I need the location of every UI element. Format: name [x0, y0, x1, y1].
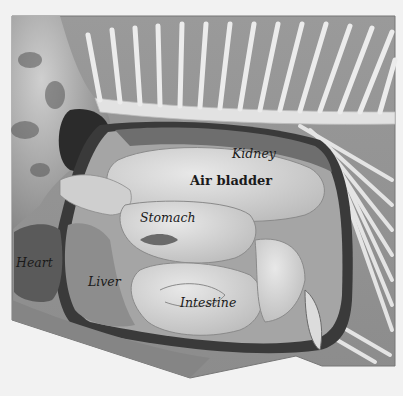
label-kidney: Kidney: [231, 146, 277, 161]
label-heart: Heart: [15, 255, 54, 270]
label-air-bladder: Air bladder: [189, 173, 272, 188]
label-liver: Liver: [87, 274, 122, 289]
label-intestine: Intestine: [179, 295, 236, 310]
fish-anatomy-illustration: Kidney Air bladder Stomach Heart Liver I…: [0, 0, 403, 396]
label-stomach: Stomach: [140, 210, 195, 225]
